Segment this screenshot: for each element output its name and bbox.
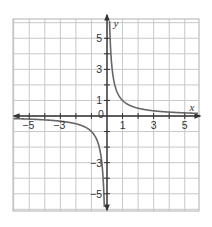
y-tick-label: −5 (90, 188, 102, 200)
y-tick-label: −3 (90, 157, 102, 169)
graph-of-reciprocal-function: −5−31350531−3−5xy (0, 0, 212, 227)
x-tick-label: 3 (151, 119, 157, 131)
x-tick-label: 5 (182, 119, 188, 131)
x-tick-label: −3 (53, 119, 65, 131)
function-curves (14, 21, 198, 207)
y-tick-label: 3 (96, 63, 102, 75)
y-axis-label: y (113, 17, 119, 29)
grid-border (13, 19, 199, 211)
x-tick-label: −5 (22, 119, 34, 131)
origin-label: 0 (98, 108, 104, 120)
y-tick-label: 1 (96, 94, 102, 106)
x-tick-label: 1 (120, 119, 126, 131)
grid-lines (13, 19, 199, 211)
y-tick-label: 5 (96, 32, 102, 44)
x-axis-label: x (189, 101, 195, 113)
